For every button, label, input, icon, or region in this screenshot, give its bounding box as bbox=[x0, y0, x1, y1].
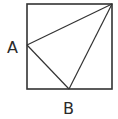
geometry-diagram: A B bbox=[0, 0, 118, 119]
segment-a-to-corner bbox=[27, 4, 112, 45]
square bbox=[27, 4, 112, 89]
label-b: B bbox=[63, 99, 74, 118]
label-a: A bbox=[7, 38, 18, 57]
segment-b-to-corner bbox=[69, 4, 112, 89]
segment-a-to-b bbox=[27, 45, 69, 89]
